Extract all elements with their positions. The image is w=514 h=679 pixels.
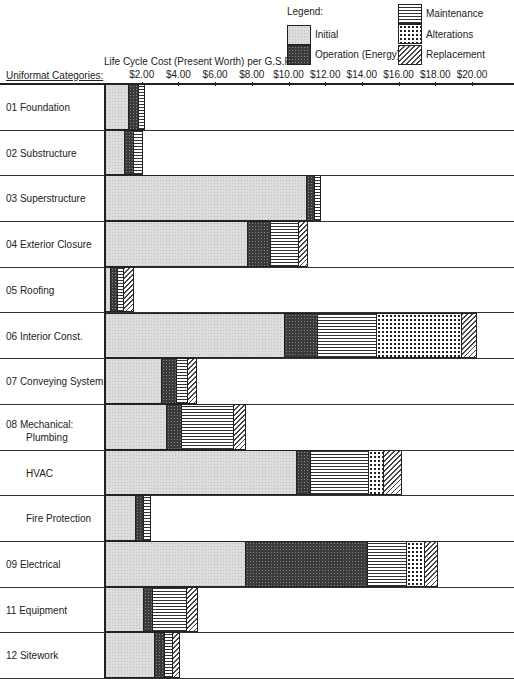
category-label-text: 12 Sitework <box>6 649 58 662</box>
stacked-bar <box>105 130 143 176</box>
bar-segment-operation <box>129 84 139 130</box>
x-tick-label: $10.00 <box>273 69 304 80</box>
category-label-text: 07 Conveying System <box>6 375 103 388</box>
bar-segment-maintenance <box>271 221 299 267</box>
chart-row: 12 Sitework <box>0 632 514 678</box>
chart-row: 02 Substructure <box>0 130 514 176</box>
bar-segment-replacement <box>299 221 308 267</box>
bar-segment-initial <box>105 541 246 587</box>
stacked-bar <box>105 404 246 450</box>
x-tick-label: $12.00 <box>310 69 341 80</box>
bar-segment-initial <box>105 130 125 176</box>
chart-row: 07 Conveying System <box>0 358 514 404</box>
bar-segment-maintenance <box>139 84 145 130</box>
bar-segment-initial <box>105 84 129 130</box>
category-label: 02 Substructure <box>6 147 77 160</box>
category-label-text: 11 Equipment <box>6 604 67 617</box>
bar-segment-initial <box>105 221 248 267</box>
category-label: 09 Electrical <box>6 558 60 571</box>
x-tick-label: $8.00 <box>239 69 264 80</box>
bar-segment-maintenance <box>165 632 173 678</box>
bar-segment-replacement <box>187 587 198 633</box>
category-label: 05 Roofing <box>6 284 54 297</box>
stacked-bar <box>105 175 321 221</box>
category-label: 01 Foundation <box>6 101 70 114</box>
y-axis-line <box>104 84 106 678</box>
bar-segment-alterations <box>369 450 384 496</box>
bar-segment-replacement <box>462 313 477 359</box>
category-label-text: 08 Mechanical: <box>6 418 73 431</box>
chart-row: 09 Electrical <box>0 541 514 587</box>
bar-segment-operation <box>125 130 134 176</box>
x-tick-label: $6.00 <box>203 69 228 80</box>
bar-segment-operation <box>285 313 318 359</box>
stacked-bar <box>105 267 134 313</box>
bar-segment-alterations <box>377 313 461 359</box>
bar-segment-maintenance <box>315 175 321 221</box>
x-tick-label: $2.00 <box>129 69 154 80</box>
bar-segment-maintenance <box>368 541 407 587</box>
chart-row: Fire Protection <box>0 495 514 541</box>
category-label-text: 03 Superstructure <box>6 192 86 205</box>
chart-row: 11 Equipment <box>0 587 514 633</box>
bar-segment-replacement <box>124 267 134 313</box>
category-label: HVAC <box>26 467 53 480</box>
x-tick-label: $20.00 <box>457 69 488 80</box>
bar-segment-replacement <box>173 632 180 678</box>
legend-label-operation: Operation (Energy) <box>315 49 400 60</box>
stacked-bar <box>105 84 145 130</box>
bar-segment-replacement <box>384 450 402 496</box>
bar-segment-initial <box>105 450 297 496</box>
bar-segment-initial <box>105 313 285 359</box>
bar-segment-operation <box>297 450 311 496</box>
stacked-bar <box>105 313 477 359</box>
bar-segment-maintenance <box>153 587 187 633</box>
bar-segment-operation <box>167 404 182 450</box>
category-label-text: 05 Roofing <box>6 284 54 297</box>
category-label: 11 Equipment <box>6 604 67 617</box>
x-axis-title: Life Cycle Cost (Present Worth) per G.S.… <box>104 56 295 67</box>
stacked-bar <box>105 541 438 587</box>
bar-segment-replacement <box>234 404 246 450</box>
bar-segment-maintenance <box>134 130 142 176</box>
category-label-text: Fire Protection <box>26 512 91 525</box>
category-label-text: 04 Exterior Closure <box>6 238 92 251</box>
bar-segment-maintenance <box>177 358 187 404</box>
category-label: 08 Mechanical:Plumbing <box>6 418 73 444</box>
chart-row: 08 Mechanical:Plumbing <box>0 404 514 450</box>
bar-segment-initial <box>105 358 162 404</box>
stacked-bar <box>105 450 402 496</box>
chart-row: HVAC <box>0 450 514 496</box>
bar-segment-maintenance <box>144 495 151 541</box>
bar-segment-initial <box>105 175 307 221</box>
category-label: 03 Superstructure <box>6 192 86 205</box>
bar-segment-operation <box>246 541 368 587</box>
bar-segment-replacement <box>425 541 438 587</box>
bar-segment-maintenance <box>318 313 378 359</box>
legend-swatch-alterations <box>398 24 422 44</box>
legend-label-alterations: Alterations <box>426 29 473 40</box>
stacked-bar <box>105 632 180 678</box>
bar-segment-maintenance <box>182 404 234 450</box>
x-tick-label: $14.00 <box>347 69 378 80</box>
x-tick-label: $4.00 <box>166 69 191 80</box>
chart-row: 05 Roofing <box>0 267 514 313</box>
bar-segment-initial <box>105 404 167 450</box>
legend-swatch-replacement <box>398 45 422 65</box>
bar-segment-operation <box>248 221 271 267</box>
legend-swatch-initial <box>287 25 311 45</box>
bar-segment-maintenance <box>311 450 370 496</box>
bar-segment-operation <box>155 632 165 678</box>
stacked-bar <box>105 358 197 404</box>
bar-segment-operation <box>162 358 178 404</box>
category-sublabel-text: Plumbing <box>6 431 73 444</box>
stacked-bar <box>105 587 198 633</box>
bar-segment-operation <box>307 175 315 221</box>
bar-segment-initial <box>105 495 136 541</box>
bar-segment-initial <box>105 587 144 633</box>
category-label: 07 Conveying System <box>6 375 103 388</box>
stacked-bar <box>105 495 151 541</box>
legend-label-maintenance: Maintenance <box>426 8 483 19</box>
category-label-text: HVAC <box>26 467 53 480</box>
x-tick-label: $18.00 <box>420 69 451 80</box>
